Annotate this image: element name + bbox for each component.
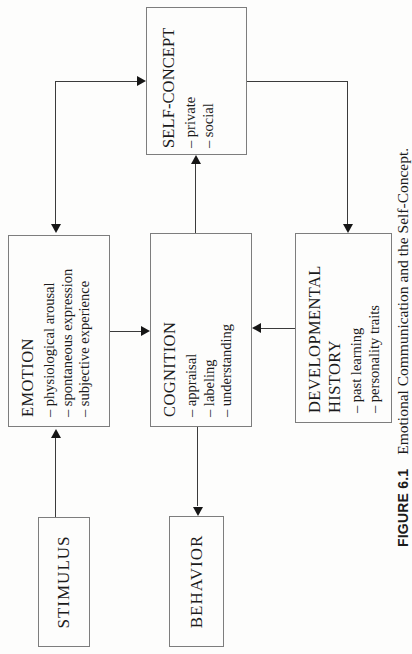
box-behavior: BEHAVIOR (169, 516, 224, 647)
box-stimulus: STIMULUS (38, 517, 90, 647)
arrow-stimulus-emotion-line (55, 438, 56, 517)
figure-caption-text: Emotional Communication and the Self-Con… (394, 148, 411, 455)
arrow-selfconcept-history-hline (347, 81, 348, 224)
figure-caption: FIGURE 6.1Emotional Communication and th… (394, 2, 412, 547)
arrow-cognition-selfconcept-head-icon (191, 155, 201, 164)
arrow-stimulus-emotion-head-icon (51, 429, 61, 438)
arrow-emotion-cognition-head-icon (141, 326, 150, 336)
box-developmental-history-item: – past learning (348, 242, 366, 413)
figure-caption-label: FIGURE 6.1 (395, 469, 411, 547)
box-emotion-item: – spontaneous expression (59, 244, 77, 417)
box-developmental-history-item: – personality traits (366, 242, 384, 413)
diagram-stage: STIMULUS BEHAVIOR EMOTION – physiologica… (0, 0, 412, 654)
arrow-history-cognition-line (261, 328, 295, 329)
box-emotion: EMOTION – physiological arousal – sponta… (8, 235, 110, 427)
box-emotion-title: EMOTION (18, 244, 38, 417)
scanned-page: STIMULUS BEHAVIOR EMOTION – physiologica… (0, 0, 412, 654)
box-cognition-title: COGNITION (160, 242, 180, 417)
box-emotion-item: – physiological arousal (41, 244, 59, 417)
arrow-history-cognition-head-icon (252, 323, 261, 333)
arrow-selfconcept-history-head-icon (343, 224, 353, 233)
arrow-emotion-selfconcept-hline (55, 81, 56, 224)
arrow-emotion-selfconcept-head-down-icon (137, 76, 146, 86)
box-developmental-history-title: DEVELOPMENTAL HISTORY (305, 253, 345, 413)
arrow-emotion-selfconcept-vline (55, 81, 138, 82)
box-cognition: COGNITION – appraisal – labeling – under… (150, 233, 252, 427)
arrow-emotion-cognition-line (110, 331, 142, 332)
arrow-emotion-selfconcept-head-left-icon (51, 224, 61, 233)
box-self-concept-item: – private (182, 16, 200, 148)
box-self-concept-item: – social (200, 16, 218, 148)
box-cognition-item: – appraisal (183, 242, 201, 417)
box-stimulus-title: STIMULUS (54, 536, 74, 629)
arrow-selfconcept-history-vline (247, 81, 348, 82)
box-self-concept-title: SELF-CONCEPT (159, 16, 179, 148)
box-cognition-item: – understanding (218, 242, 236, 417)
arrow-cognition-behavior-line (197, 427, 198, 506)
arrow-cognition-selfconcept-line (195, 164, 196, 233)
box-behavior-title: BEHAVIOR (187, 535, 207, 629)
box-self-concept: SELF-CONCEPT – private – social (146, 7, 247, 155)
box-emotion-item: – subjective experience (76, 244, 94, 417)
arrow-cognition-behavior-head-icon (193, 507, 203, 516)
box-cognition-item: – labeling (201, 242, 219, 417)
box-developmental-history: DEVELOPMENTAL HISTORY – past learning – … (295, 233, 392, 423)
